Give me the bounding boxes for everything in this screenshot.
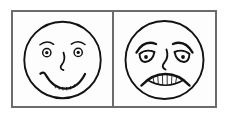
sad-face-drawing xyxy=(114,12,215,106)
happy-right-pupil-icon xyxy=(77,51,80,54)
sad-head-outline xyxy=(126,21,204,99)
sad-mouth-icon xyxy=(142,74,190,86)
happy-right-eyebrow-icon xyxy=(71,42,85,45)
illustration-frame: Happy face xyxy=(11,10,217,108)
happy-left-eyebrow-icon xyxy=(40,42,54,45)
sad-right-pupil-icon xyxy=(181,55,185,59)
happy-face-drawing xyxy=(13,12,112,106)
sad-left-pupil-icon xyxy=(144,55,148,59)
happy-mouth-icon xyxy=(40,73,85,89)
sad-lower-lip-icon xyxy=(148,80,184,85)
happy-nose-icon xyxy=(61,53,65,71)
panel-happy-face[interactable]: Happy face xyxy=(13,12,114,106)
happy-left-pupil-icon xyxy=(45,51,48,54)
drawing-canvas: Happy face xyxy=(0,0,228,119)
sad-nose-icon xyxy=(163,50,168,70)
happy-head-outline xyxy=(24,22,100,98)
panel-sad-face[interactable]: Sad face xyxy=(114,12,215,106)
